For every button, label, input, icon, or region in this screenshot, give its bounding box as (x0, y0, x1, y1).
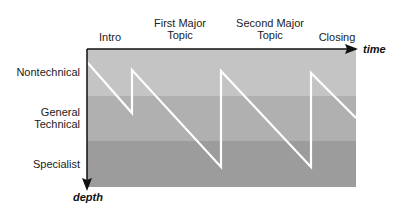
level-label-line: General (0, 106, 80, 118)
x-axis-label: time (363, 43, 386, 55)
level-label-general-technical: General Technical (0, 106, 80, 130)
y-axis-label: depth (73, 191, 103, 203)
level-label-line: Technical (0, 118, 80, 130)
level-label-specialist: Specialist (0, 158, 80, 170)
phase-label-line: Topic (225, 29, 315, 41)
phase-label-first-major-topic: First Major Topic (140, 17, 220, 41)
phase-label-line: Topic (140, 29, 220, 41)
phase-label-closing: Closing (312, 31, 362, 43)
level-label-nontechnical: Nontechnical (0, 66, 80, 78)
phase-label-intro: Intro (95, 31, 125, 43)
phase-label-line: First Major (140, 17, 220, 29)
phase-label-second-major-topic: Second Major Topic (225, 17, 315, 41)
phase-label-line: Second Major (225, 17, 315, 29)
